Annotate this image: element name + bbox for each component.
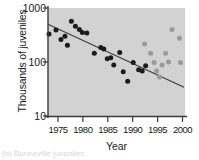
data-point (170, 27, 175, 32)
data-point (101, 46, 106, 51)
data-point (47, 32, 52, 37)
data-point (69, 19, 74, 24)
data-point (131, 60, 136, 65)
data-point (125, 79, 130, 84)
data-point (121, 69, 126, 74)
x-tick-label-1985: 1985 (94, 124, 122, 135)
x-tick-label-1975: 1975 (44, 124, 72, 135)
figure-caption: (b) Bonneville juveniles (2, 149, 84, 158)
y-axis-tick-labels: 1000 100 10 (0, 0, 46, 160)
data-point (140, 69, 145, 74)
chart-figure: Thousands of juveniles 1000 100 10 19751… (0, 0, 199, 160)
y-tick-label-10: 10 (34, 110, 46, 122)
data-point (157, 74, 162, 79)
data-point (152, 60, 157, 65)
data-point (177, 36, 182, 41)
data-point (65, 43, 70, 48)
data-point (160, 63, 165, 68)
data-point (108, 55, 113, 60)
plot-background (48, 8, 185, 116)
data-point (163, 51, 168, 56)
data-point (62, 34, 67, 39)
data-point (80, 30, 85, 35)
x-tick-label-1995: 1995 (144, 124, 172, 135)
data-point (53, 28, 58, 33)
data-point (92, 51, 97, 56)
x-tick-label-1990: 1990 (119, 124, 147, 135)
data-point (166, 60, 171, 65)
data-point (142, 42, 147, 47)
x-tick-label-2000: 2000 (169, 124, 197, 135)
data-point (143, 63, 148, 68)
data-point (117, 50, 122, 55)
data-point (84, 30, 89, 35)
data-point (111, 63, 116, 68)
y-tick-label-100: 100 (28, 56, 46, 68)
data-point (73, 24, 78, 29)
data-point (178, 60, 183, 65)
data-point (148, 51, 153, 56)
data-point (154, 69, 159, 74)
x-tick-label-1980: 1980 (69, 124, 97, 135)
y-tick-label-1000: 1000 (23, 2, 46, 14)
data-point (58, 37, 63, 42)
